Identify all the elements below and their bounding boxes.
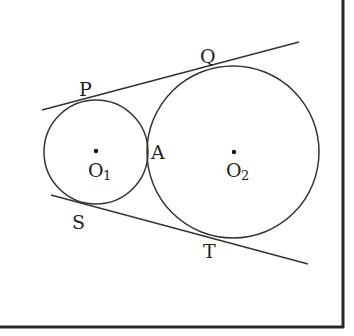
tangent-circles-diagram: P Q S T A O 1 O 2 (0, 0, 354, 336)
label-s: S (72, 211, 85, 233)
label-t: T (203, 240, 216, 262)
center-dot-o1 (94, 149, 98, 153)
center-dot-o2 (232, 150, 236, 154)
label-o1: O (88, 159, 104, 181)
label-q: Q (200, 45, 216, 67)
label-a: A (150, 141, 165, 163)
label-o1-subscript: 1 (103, 168, 111, 183)
label-o2: O (226, 159, 242, 181)
label-p: P (79, 78, 92, 100)
label-o2-subscript: 2 (241, 168, 249, 183)
